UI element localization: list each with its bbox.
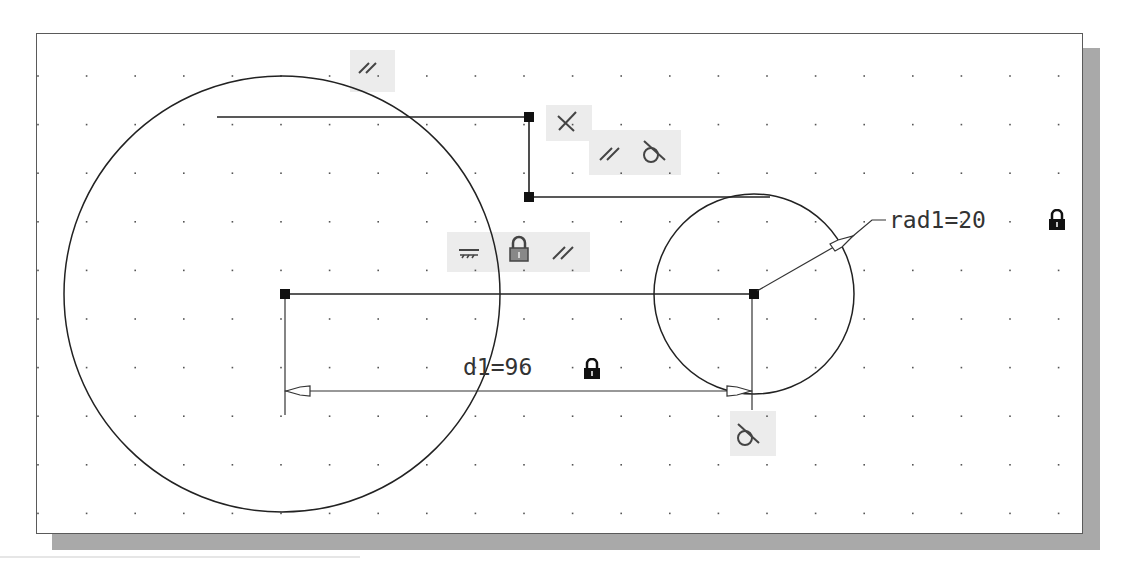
endpoint-square[interactable]: [524, 192, 534, 202]
dimension-rad1-label[interactable]: rad1=20: [889, 209, 986, 232]
arrowhead-radius-icon: [830, 236, 853, 251]
sketch-lines[interactable]: [217, 117, 770, 294]
parallel-icon: [553, 247, 573, 259]
endpoint-square[interactable]: [280, 289, 290, 299]
tangent-icon: [738, 424, 759, 445]
tangent-icon: [644, 141, 665, 162]
lock-icon: [583, 358, 601, 380]
perpendicular-icon: [558, 112, 576, 131]
bottom-divider: [0, 556, 360, 558]
fix-icon: [459, 250, 479, 258]
parallel-icon: [359, 63, 376, 73]
dimension-rad1-text: rad1=20: [889, 207, 986, 233]
dimension-rad1[interactable]: [757, 220, 886, 291]
lock-icon: [1048, 209, 1066, 231]
parallel-icon: [600, 148, 619, 160]
endpoint-square[interactable]: [524, 112, 534, 122]
endpoints[interactable]: [280, 112, 759, 299]
sketch-canvas[interactable]: [0, 0, 1133, 571]
radius-leader-tail: [853, 220, 886, 236]
arrowhead-left-icon: [286, 386, 310, 396]
dimension-d1-label[interactable]: d1=96: [463, 356, 532, 379]
dimension-d1-text: d1=96: [463, 354, 532, 380]
lock-icon: [510, 237, 528, 261]
